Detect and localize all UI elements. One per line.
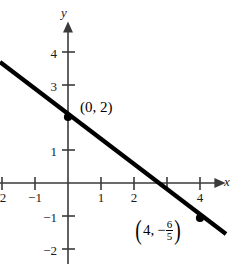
point-marker-second [196,214,204,222]
x-tick-label-neg1: −1 [28,191,42,204]
y-tick-label-neg1: −1 [43,211,57,224]
point-marker-y-intercept [64,113,72,121]
fraction-denominator: 5 [166,231,174,242]
second-point-x-value: 4, [143,223,154,238]
y-tick-label-4: 4 [51,47,58,60]
second-point-close-paren: ) [174,220,180,241]
x-tick-label-2: 2 [131,191,138,204]
y-intercept-point-label: (0, 2) [80,100,113,115]
x-tick-label-1: 1 [98,191,105,204]
x-tick-label-4: 4 [197,191,204,204]
second-point-label: ( 4, − 6 5 ) [134,219,182,242]
x-tick-label-neg2: 2 [0,191,6,204]
x-axis-label: x [224,175,230,188]
second-point-fraction: 6 5 [166,219,174,242]
second-point-open-paren: ( [135,220,141,241]
second-point-minus-sign: − [157,223,165,238]
coordinate-plane-figure: y x 2 −1 1 2 4 4 3 1 −1 −2 (0, 2) ( 4, −… [0,0,237,264]
graph-canvas [0,0,237,264]
fraction-numerator: 6 [166,219,174,230]
plotted-line [0,62,226,234]
y-axis-label: y [61,6,67,19]
y-tick-label-3: 3 [51,80,58,93]
y-tick-label-neg2: −2 [43,244,57,257]
y-tick-label-1: 1 [51,145,58,158]
